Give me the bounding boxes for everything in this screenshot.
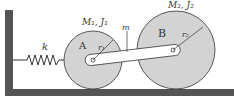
mechanism-diagram: k A r₁ M₁, J₁ B r₂ M₂, J₂ m [0,0,234,103]
disk-a-mass-inertia-label: M₁, J₁ [81,17,108,27]
disk-b-mass-inertia-label: M₂, J₂ [167,0,194,10]
disk-a-radius-label: r₁ [98,43,105,52]
disk-a-label: A [78,40,87,51]
disk-b-label: B [158,27,166,40]
spring-label: k [42,41,48,52]
disk-b-radius-label: r₂ [182,30,189,39]
floor [5,89,234,96]
link-mass-label: m [122,23,130,32]
spring [13,55,66,65]
wall [5,10,13,96]
